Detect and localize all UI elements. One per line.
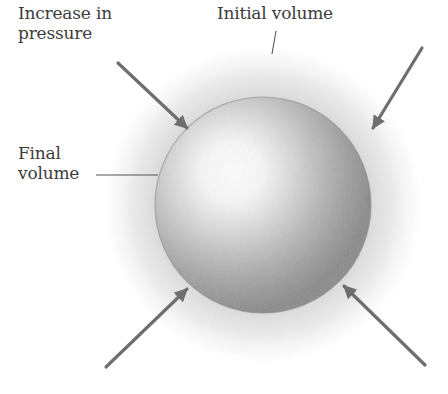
pressure-label-line1: Increase in [18, 3, 112, 23]
diagram-canvas: Increase in pressure Initial volume Fina… [0, 0, 448, 394]
pressure-label-line2: pressure [18, 23, 112, 43]
initial-volume-label: Initial volume [217, 3, 333, 23]
final-label-line1: Final [18, 143, 79, 163]
final-label-line2: volume [18, 163, 79, 183]
arrow-top-right-icon [373, 48, 422, 128]
increase-in-pressure-label: Increase in pressure [18, 3, 112, 43]
final-volume-label: Final volume [18, 143, 79, 183]
compression-diagram [0, 0, 448, 394]
